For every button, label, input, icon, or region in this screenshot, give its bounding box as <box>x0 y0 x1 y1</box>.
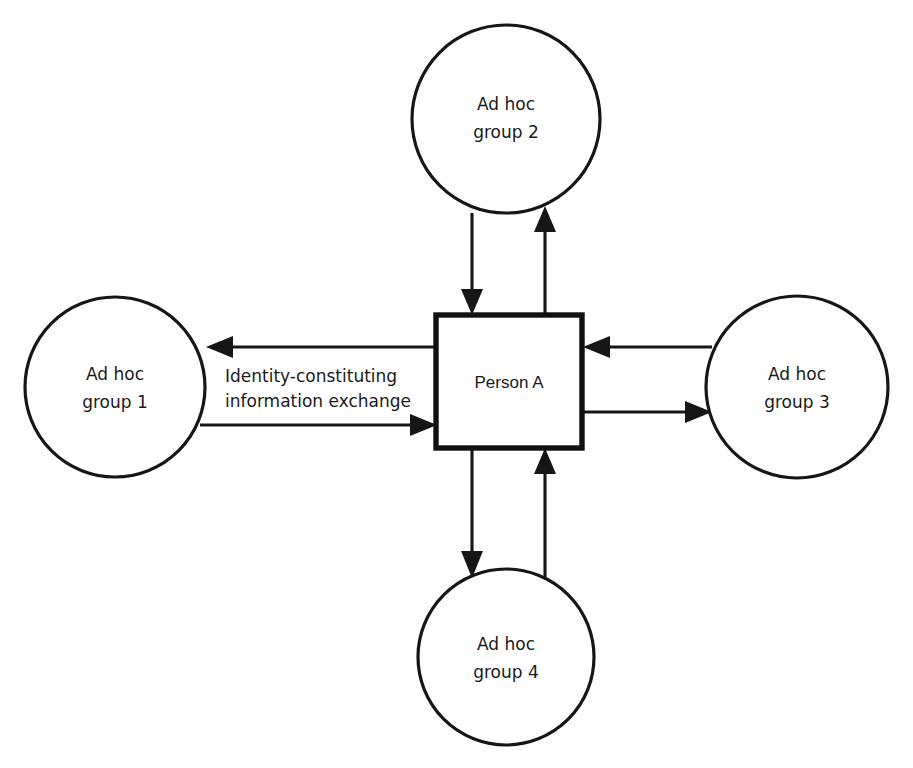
node-label-line1: Ad hoc <box>768 364 826 384</box>
node-person-a[interactable]: Person A <box>436 315 582 448</box>
node-ad-hoc-group-1[interactable]: Ad hoc group 1 <box>25 297 205 477</box>
node-circle[interactable] <box>412 25 600 213</box>
node-label: Person A <box>475 373 545 392</box>
edge-label-identity-constituting-information-exchange: Identity-constituting information exchan… <box>225 366 411 411</box>
node-circle[interactable] <box>706 296 888 478</box>
node-circle[interactable] <box>25 297 205 477</box>
arrow-head-up-icon <box>534 448 556 474</box>
edge-group-3-to-person-a <box>583 336 712 358</box>
arrow-head-down-icon <box>461 289 483 315</box>
node-circle[interactable] <box>418 569 594 745</box>
node-label-line2: group 4 <box>473 662 539 682</box>
arrow-head-left-icon <box>206 336 233 358</box>
edge-group-1-to-person-a <box>200 414 437 436</box>
node-label-line2: group 3 <box>764 392 830 412</box>
node-ad-hoc-group-2[interactable]: Ad hoc group 2 <box>412 25 600 213</box>
edge-person-a-to-group-4 <box>461 448 483 578</box>
node-label-line1: Ad hoc <box>477 94 535 114</box>
node-label-line2: group 2 <box>473 122 539 142</box>
edge-label-line2: information exchange <box>225 391 411 411</box>
edge-person-a-to-group-2 <box>534 206 556 315</box>
node-label-line1: Ad hoc <box>477 634 535 654</box>
arrow-head-left-icon <box>583 336 610 358</box>
node-label-line1: Ad hoc <box>86 364 144 384</box>
arrow-head-up-icon <box>534 206 556 232</box>
edge-group-2-to-person-a <box>461 213 483 315</box>
diagram-svg: Ad hoc group 2 Ad hoc group 1 Ad hoc gro… <box>0 0 913 768</box>
edge-label-line1: Identity-constituting <box>225 366 397 386</box>
node-label-line2: group 1 <box>82 392 148 412</box>
arrow-head-right-icon <box>410 414 437 436</box>
edge-group-4-to-person-a <box>534 448 556 590</box>
edge-person-a-to-group-3 <box>582 401 712 423</box>
diagram-canvas: Ad hoc group 2 Ad hoc group 1 Ad hoc gro… <box>0 0 913 768</box>
edge-person-a-to-group-1 <box>206 336 436 358</box>
node-ad-hoc-group-3[interactable]: Ad hoc group 3 <box>706 296 888 478</box>
node-ad-hoc-group-4[interactable]: Ad hoc group 4 <box>418 569 594 745</box>
